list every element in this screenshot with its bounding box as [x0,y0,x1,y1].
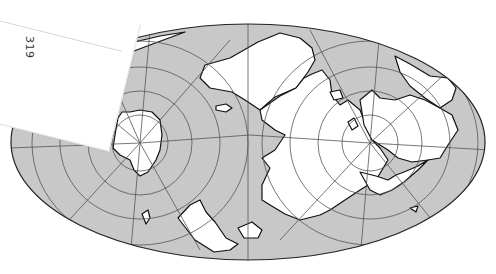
map-figure: 319 [0,0,496,274]
page-number: 319 [23,36,36,59]
label-divider [0,19,122,51]
